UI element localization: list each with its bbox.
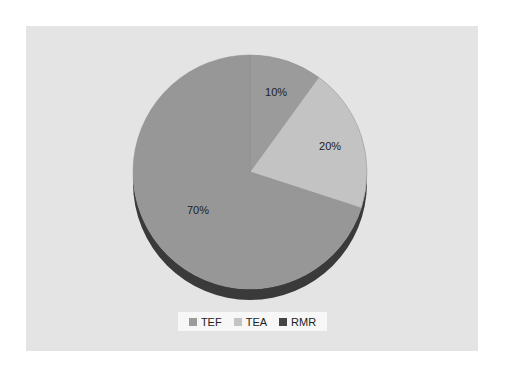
pie-label-tea: 20% (319, 140, 341, 152)
legend-label-rmr: RMR (291, 316, 316, 328)
legend-item-tef: TEF (189, 316, 222, 328)
legend-swatch-rmr (279, 318, 287, 326)
legend-label-tea: TEA (246, 316, 267, 328)
pie-label-rmr: 70% (187, 204, 209, 216)
legend-swatch-tea (234, 318, 242, 326)
legend-item-tea: TEA (234, 316, 267, 328)
legend-item-rmr: RMR (279, 316, 316, 328)
legend-swatch-tef (189, 318, 197, 326)
pie-label-tef: 10% (265, 86, 287, 98)
legend-label-tef: TEF (201, 316, 222, 328)
pie-slices (133, 55, 367, 289)
legend: TEF TEA RMR (178, 312, 327, 331)
